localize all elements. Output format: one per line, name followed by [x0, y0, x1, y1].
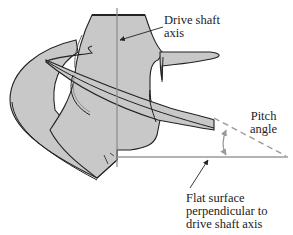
- flat-surface-leader: [190, 160, 208, 188]
- label-pitch-line2: angle: [250, 123, 277, 136]
- pitch-angle-arc: [223, 130, 226, 155]
- label-drive-shaft-axis: Drive shaft axis: [164, 14, 220, 40]
- label-flat-line3: drive shaft axis: [186, 218, 268, 231]
- label-pitch-angle: Pitch angle: [250, 110, 277, 136]
- fin-upper-right: [160, 52, 219, 80]
- label-flat-surface: Flat surface perpendicular to drive shaf…: [186, 192, 268, 231]
- label-drive-shaft-line2: axis: [164, 27, 220, 40]
